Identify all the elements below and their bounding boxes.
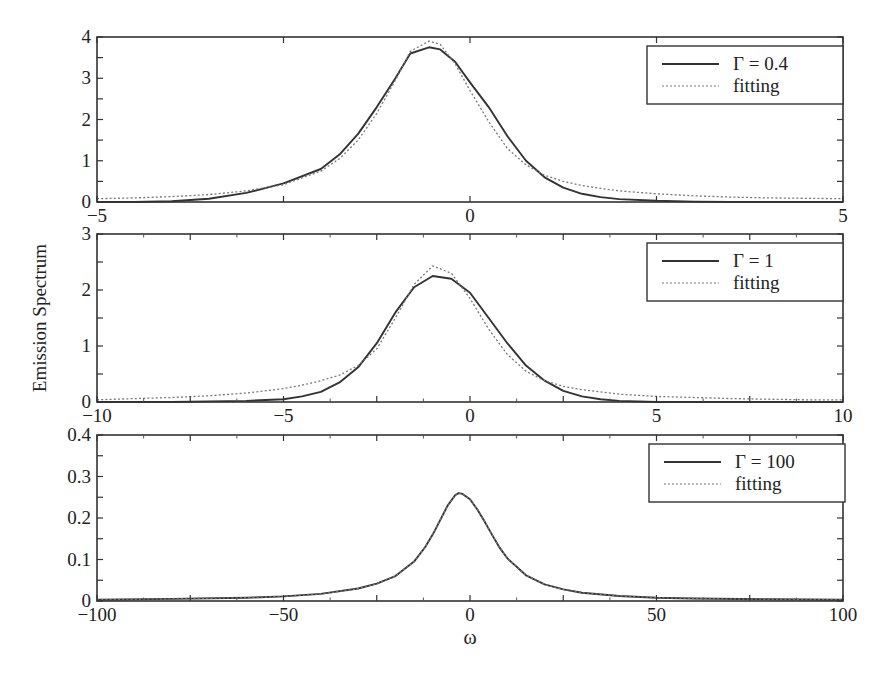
y-tick-label: 0.4 [67, 424, 91, 445]
legend-label: Γ = 0.4 [733, 53, 788, 74]
x-tick-label: 5 [838, 205, 848, 226]
legend: Γ = 0.4fitting [647, 46, 843, 104]
y-tick-label: 0.3 [67, 466, 91, 487]
x-tick-label: 50 [647, 604, 666, 625]
legend-label: Γ = 100 [735, 451, 795, 472]
y-tick-label: 0 [82, 590, 92, 611]
x-tick-label: 0 [465, 205, 475, 226]
x-tick-label: 0 [465, 604, 475, 625]
x-tick-label: 5 [652, 405, 662, 426]
legend: Γ = 1fitting [647, 243, 843, 301]
y-tick-label: 3 [82, 67, 92, 88]
emission-spectrum-figure: −50501234Γ = 0.4fitting −10−505100123Γ =… [0, 0, 889, 676]
spectrum-curve [97, 493, 843, 600]
x-tick-label: −50 [269, 604, 299, 625]
y-tick-label: 0.2 [67, 507, 91, 528]
panel-gamma-0.4: −50501234Γ = 0.4fitting [82, 26, 848, 226]
y-tick-label: 2 [82, 279, 92, 300]
y-tick-label: 0 [82, 191, 92, 212]
legend: Γ = 100fitting [649, 444, 845, 502]
y-tick-label: 4 [82, 26, 92, 47]
legend-label: Γ = 1 [733, 250, 774, 271]
x-tick-label: 100 [829, 604, 858, 625]
panel-gamma-100: −100−5005010000.10.20.30.4Γ = 100fitting [67, 424, 857, 625]
x-tick-label: 10 [834, 405, 853, 426]
x-tick-label: −5 [273, 405, 293, 426]
y-axis-label: Emission Spectrum [29, 244, 50, 393]
panel-gamma-1: −10−505100123Γ = 1fitting [82, 223, 853, 426]
x-tick-label: 0 [465, 405, 475, 426]
legend-label: fitting [733, 272, 780, 293]
x-axis-label: ω [463, 626, 476, 648]
y-tick-label: 0 [82, 391, 92, 412]
legend-label: fitting [735, 473, 782, 494]
y-tick-label: 3 [82, 223, 92, 244]
legend-label: fitting [733, 75, 780, 96]
fitting-curve [97, 493, 843, 600]
y-tick-label: 1 [82, 150, 92, 171]
y-tick-label: 2 [82, 109, 92, 130]
y-tick-label: 1 [82, 335, 92, 356]
y-tick-label: 0.1 [67, 549, 91, 570]
